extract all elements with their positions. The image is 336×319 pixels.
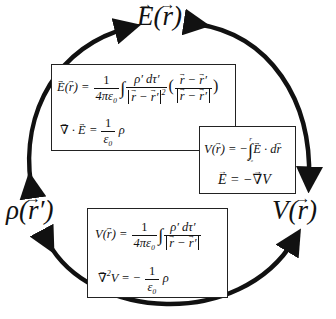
potential-arg: r [298,197,309,224]
poisson-equation: ∇2V = − 1ε₀ ρ [98,265,169,293]
field-arg: r [163,3,174,30]
charge-symbol: ρ [6,195,19,225]
field-symbol: E [137,3,154,30]
field-gradient-equation: E = −∇V [218,173,271,187]
box-charge-potential: V(r) = 14πε₀∫ρ′ dτ′r − r′ ∇2V = − 1ε₀ ρ [87,208,228,298]
potential-line-integral-equation: V(r) = −r∫r₀E · dr [204,137,281,163]
node-electric-field: E(r) [137,3,182,30]
coulomb-field-equation: E(r) = 14πε₀∫ρ′ dτ′r − r′2(r − r′r − r′) [57,73,218,103]
charge-arg: r [28,197,39,224]
potential-symbol: V [272,195,289,225]
gauss-law-equation: ∇ · E = 1ε₀ ρ [60,117,125,145]
node-potential: V(r) [272,197,317,224]
node-charge-density: ρ(r′) [6,197,53,224]
electrostatics-diagram: E(r) ρ(r′) V(r) E(r) = 14πε₀∫ρ′ dτ′r − r… [0,0,336,319]
potential-integral-equation: V(r) = 14πε₀∫ρ′ dτ′r − r′ [95,221,202,249]
box-field-potential: V(r) = −r∫r₀E · dr E = −∇V [199,126,296,194]
